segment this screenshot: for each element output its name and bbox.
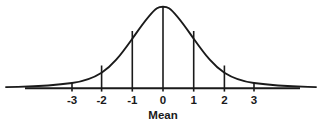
tick-label-plus-3: 3 <box>251 94 257 106</box>
bell-curve-path <box>6 7 316 87</box>
bell-curve-figure: -3 -2 -1 0 1 2 3 Mean <box>0 0 320 126</box>
tick-label-plus-1: 1 <box>190 94 197 106</box>
normal-distribution-chart: -3 -2 -1 0 1 2 3 Mean <box>0 0 320 126</box>
tick-label-minus-2: -2 <box>96 94 106 106</box>
tick-label-minus-1: -1 <box>127 94 138 106</box>
tick-label-mean: 0 <box>160 94 166 106</box>
tick-label-plus-2: 2 <box>221 94 227 106</box>
axis-title-mean: Mean <box>148 109 177 121</box>
tick-label-minus-3: -3 <box>67 94 77 106</box>
